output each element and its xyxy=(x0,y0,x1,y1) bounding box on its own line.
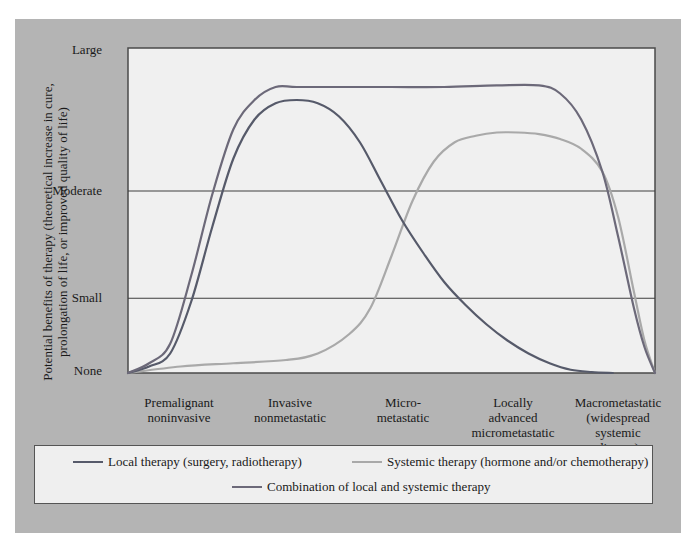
legend-item-systemic: Systemic therapy (hormone and/or chemoth… xyxy=(352,454,648,470)
x-category-invasive: Invasive nonmetastatic xyxy=(230,395,350,425)
x-category-premalignant: Premalignant noninvasive xyxy=(119,395,239,425)
plot-area xyxy=(15,19,681,439)
legend: Local therapy (surgery, radiotherapy) Sy… xyxy=(34,445,653,504)
y-tick-large: Large xyxy=(72,42,102,58)
y-axis-title-line-2: prolongation of life, or improved qualit… xyxy=(55,72,70,392)
legend-swatch-systemic-icon xyxy=(352,461,382,463)
figure-panel: Potential benefits of therapy (theoretic… xyxy=(15,19,681,533)
legend-label-combination: Combination of local and systemic therap… xyxy=(267,479,490,495)
y-axis-title-line-1: Potential benefits of therapy (theoretic… xyxy=(40,72,55,392)
y-tick-moderate: Moderate xyxy=(52,183,102,199)
y-tick-none: None xyxy=(74,363,102,379)
legend-swatch-local-icon xyxy=(73,461,103,463)
legend-label-systemic: Systemic therapy (hormone and/or chemoth… xyxy=(387,454,648,470)
y-tick-small: Small xyxy=(72,290,102,306)
x-category-micrometastatic: Micro- metastatic xyxy=(343,395,463,425)
legend-item-local: Local therapy (surgery, radiotherapy) xyxy=(73,454,302,470)
legend-item-combination: Combination of local and systemic therap… xyxy=(232,479,490,495)
y-axis-title: Potential benefits of therapy (theoretic… xyxy=(35,77,75,387)
legend-swatch-combination-icon xyxy=(232,486,262,488)
legend-label-local: Local therapy (surgery, radiotherapy) xyxy=(108,454,302,470)
